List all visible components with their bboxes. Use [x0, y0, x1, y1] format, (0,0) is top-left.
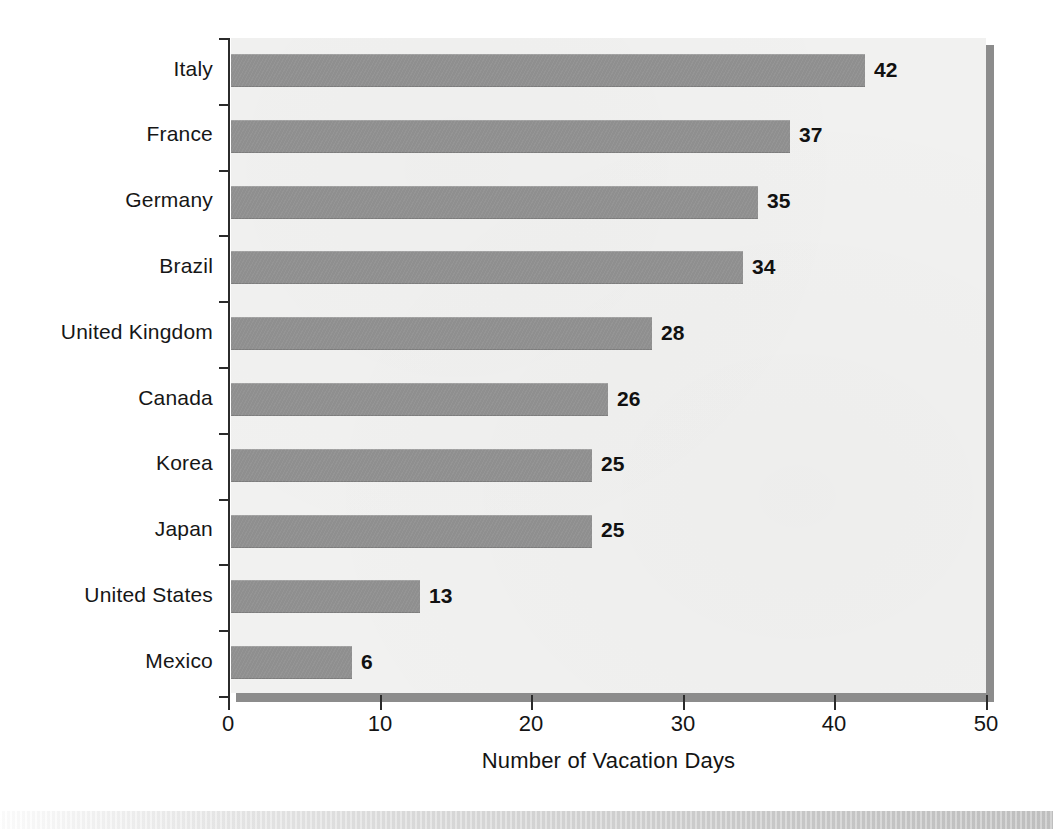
bar-brazil [231, 251, 743, 284]
y-axis-tick [219, 367, 230, 369]
category-label-united-states: United States [84, 583, 213, 607]
x-axis-tick [380, 695, 382, 710]
x-axis-tick-label: 40 [822, 711, 846, 737]
category-label-korea: Korea [156, 451, 213, 475]
bar-france [231, 120, 790, 153]
x-axis-tick-label: 20 [519, 711, 543, 737]
bar-value-label: 25 [601, 452, 624, 476]
category-label-germany: Germany [125, 188, 213, 212]
y-axis-tick [219, 235, 230, 237]
y-axis-tick [219, 104, 230, 106]
category-label-mexico: Mexico [145, 649, 213, 673]
y-axis-tick [219, 301, 230, 303]
category-label-brazil: Brazil [159, 254, 213, 278]
bar-value-label: 37 [799, 123, 822, 147]
y-axis-tick [219, 38, 230, 40]
x-axis-tick-label: 10 [368, 711, 392, 737]
x-axis-tick [986, 695, 988, 710]
x-axis-tick-label: 0 [222, 711, 234, 737]
category-label-italy: Italy [173, 57, 213, 81]
scan-edge-artifact [0, 811, 1053, 829]
bar-value-label: 13 [429, 584, 452, 608]
y-axis-tick [219, 170, 230, 172]
x-axis-tick [531, 695, 533, 710]
bar-germany [231, 186, 758, 219]
x-axis-tick [683, 695, 685, 710]
y-axis-tick [219, 499, 230, 501]
x-axis-tick-label: 30 [671, 711, 695, 737]
bar-value-label: 35 [767, 189, 790, 213]
x-axis-tick-label: 50 [974, 711, 998, 737]
bar-value-label: 25 [601, 518, 624, 542]
bar-value-label: 28 [661, 321, 684, 345]
bar-canada [231, 383, 608, 416]
panel-shadow-bottom [236, 693, 992, 702]
category-label-france: France [146, 122, 213, 146]
category-label-japan: Japan [155, 517, 213, 541]
bar-korea [231, 449, 592, 482]
y-axis-tick [219, 433, 230, 435]
category-label-united-kingdom: United Kingdom [61, 320, 213, 344]
panel-shadow-right [986, 45, 994, 702]
bar-value-label: 42 [874, 58, 897, 82]
x-axis-tick [228, 695, 230, 710]
x-axis-title: Number of Vacation Days [231, 748, 986, 774]
bar-mexico [231, 646, 352, 679]
bar-japan [231, 515, 592, 548]
bar-value-label: 26 [617, 387, 640, 411]
bar-value-label: 34 [752, 255, 775, 279]
bar-chart-figure: 4237353428262525136 ItalyFranceGermanyBr… [0, 0, 1053, 829]
bar-united-states [231, 580, 420, 613]
bar-value-label: 6 [361, 650, 373, 674]
y-axis-tick [219, 564, 230, 566]
bar-united-kingdom [231, 317, 652, 350]
category-label-canada: Canada [138, 386, 213, 410]
bar-italy [231, 54, 865, 87]
y-axis-tick [219, 630, 230, 632]
x-axis-tick [834, 695, 836, 710]
